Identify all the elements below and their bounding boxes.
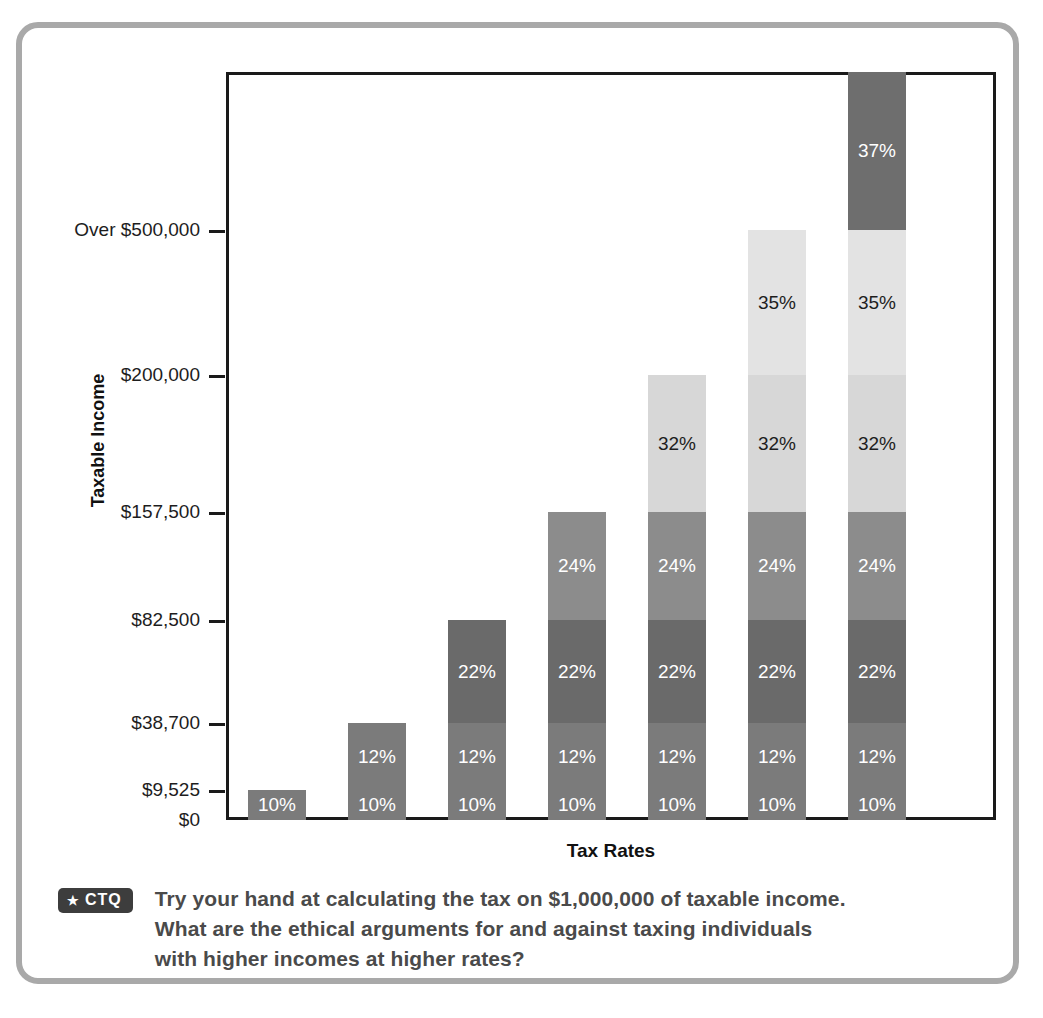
segment-label: 10% bbox=[458, 794, 496, 816]
y-tick-label-5: $200,000 bbox=[0, 365, 200, 384]
y-tick-label-0: $0 bbox=[0, 810, 200, 829]
stacked-bar-chart: Taxable Income $0$9,525$38,700$82,500$15… bbox=[0, 0, 1043, 1018]
bar-segment-12pct[interactable]: 12% bbox=[748, 723, 806, 790]
y-tick-mark-5 bbox=[209, 375, 225, 378]
bar-6[interactable]: 10%12%22%24%32%35% bbox=[748, 72, 806, 820]
segment-label: 10% bbox=[758, 794, 796, 816]
ctq-line-1: Try your hand at calculating the tax on … bbox=[155, 884, 846, 914]
y-tick-label-4: $157,500 bbox=[0, 502, 200, 521]
y-tick-mark-1 bbox=[209, 790, 225, 793]
segment-label: 35% bbox=[758, 292, 796, 314]
bar-segment-24pct[interactable]: 24% bbox=[848, 512, 906, 620]
y-tick-label-2: $38,700 bbox=[0, 713, 200, 732]
segment-label: 10% bbox=[358, 794, 396, 816]
bar-segment-10pct[interactable]: 10% bbox=[248, 790, 306, 820]
segment-label: 10% bbox=[558, 794, 596, 816]
y-tick-label-6: Over $500,000 bbox=[0, 220, 200, 239]
y-tick-label-1: $9,525 bbox=[0, 780, 200, 799]
ctq-text: Try your hand at calculating the tax on … bbox=[155, 884, 846, 973]
bar-segment-22pct[interactable]: 22% bbox=[848, 620, 906, 723]
bar-3[interactable]: 10%12%22% bbox=[448, 72, 506, 820]
ctq-footnote: ★ CTQ Try your hand at calculating the t… bbox=[58, 884, 988, 973]
segment-label: 37% bbox=[858, 140, 896, 162]
bar-1[interactable]: 10% bbox=[248, 72, 306, 820]
ctq-badge: ★ CTQ bbox=[58, 888, 133, 913]
bar-segment-24pct[interactable]: 24% bbox=[748, 512, 806, 620]
bar-segment-32pct[interactable]: 32% bbox=[848, 375, 906, 512]
bar-segment-24pct[interactable]: 24% bbox=[548, 512, 606, 620]
segment-label: 12% bbox=[658, 746, 696, 768]
bar-5[interactable]: 10%12%22%24%32% bbox=[648, 72, 706, 820]
bar-7[interactable]: 10%12%22%24%32%35%37% bbox=[848, 72, 906, 820]
figure-root: Taxable Income $0$9,525$38,700$82,500$15… bbox=[0, 0, 1043, 1018]
bar-segment-10pct[interactable]: 10% bbox=[848, 790, 906, 820]
bar-segment-22pct[interactable]: 22% bbox=[548, 620, 606, 723]
bar-segment-12pct[interactable]: 12% bbox=[848, 723, 906, 790]
bar-segment-22pct[interactable]: 22% bbox=[448, 620, 506, 723]
segment-label: 32% bbox=[758, 433, 796, 455]
bars-layer: 10%10%12%10%12%22%10%12%22%24%10%12%22%2… bbox=[226, 72, 996, 820]
y-tick-label-3: $82,500 bbox=[0, 610, 200, 629]
segment-label: 10% bbox=[658, 794, 696, 816]
bar-segment-10pct[interactable]: 10% bbox=[648, 790, 706, 820]
segment-label: 24% bbox=[858, 555, 896, 577]
ctq-line-2: What are the ethical arguments for and a… bbox=[155, 914, 846, 944]
y-tick-mark-6 bbox=[209, 230, 225, 233]
segment-label: 12% bbox=[858, 746, 896, 768]
bar-2[interactable]: 10%12% bbox=[348, 72, 406, 820]
bar-segment-24pct[interactable]: 24% bbox=[648, 512, 706, 620]
segment-label: 24% bbox=[558, 555, 596, 577]
segment-label: 10% bbox=[258, 794, 296, 816]
bar-segment-35pct[interactable]: 35% bbox=[848, 230, 906, 375]
segment-label: 32% bbox=[658, 433, 696, 455]
segment-label: 12% bbox=[458, 746, 496, 768]
star-icon: ★ bbox=[67, 894, 80, 907]
bar-segment-12pct[interactable]: 12% bbox=[548, 723, 606, 790]
segment-label: 10% bbox=[858, 794, 896, 816]
segment-label: 32% bbox=[858, 433, 896, 455]
segment-label: 12% bbox=[358, 746, 396, 768]
segment-label: 22% bbox=[458, 661, 496, 683]
bar-4[interactable]: 10%12%22%24% bbox=[548, 72, 606, 820]
bar-segment-12pct[interactable]: 12% bbox=[348, 723, 406, 790]
segment-label: 12% bbox=[758, 746, 796, 768]
bar-segment-12pct[interactable]: 12% bbox=[448, 723, 506, 790]
bar-segment-35pct[interactable]: 35% bbox=[748, 230, 806, 375]
ctq-line-3: with higher incomes at higher rates? bbox=[155, 944, 846, 974]
bar-segment-22pct[interactable]: 22% bbox=[648, 620, 706, 723]
bar-segment-22pct[interactable]: 22% bbox=[748, 620, 806, 723]
bar-segment-37pct[interactable]: 37% bbox=[848, 72, 906, 230]
bar-segment-32pct[interactable]: 32% bbox=[648, 375, 706, 512]
y-tick-mark-4 bbox=[209, 512, 225, 515]
segment-label: 22% bbox=[758, 661, 796, 683]
bar-segment-10pct[interactable]: 10% bbox=[548, 790, 606, 820]
bar-segment-10pct[interactable]: 10% bbox=[348, 790, 406, 820]
segment-label: 22% bbox=[658, 661, 696, 683]
ctq-badge-label: CTQ bbox=[85, 892, 122, 908]
bar-segment-12pct[interactable]: 12% bbox=[648, 723, 706, 790]
bar-segment-10pct[interactable]: 10% bbox=[448, 790, 506, 820]
y-tick-mark-2 bbox=[209, 723, 225, 726]
segment-label: 35% bbox=[858, 292, 896, 314]
segment-label: 12% bbox=[558, 746, 596, 768]
segment-label: 22% bbox=[558, 661, 596, 683]
segment-label: 22% bbox=[858, 661, 896, 683]
bar-segment-10pct[interactable]: 10% bbox=[748, 790, 806, 820]
bar-segment-32pct[interactable]: 32% bbox=[748, 375, 806, 512]
segment-label: 24% bbox=[758, 555, 796, 577]
y-tick-mark-3 bbox=[209, 620, 225, 623]
segment-label: 24% bbox=[658, 555, 696, 577]
x-axis-title: Tax Rates bbox=[226, 840, 996, 862]
